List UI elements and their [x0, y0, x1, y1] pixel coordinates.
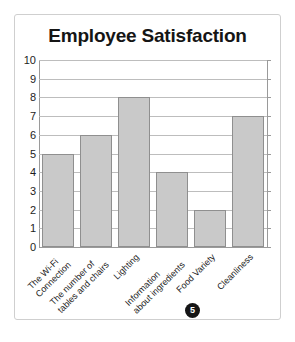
y-tick-label-4: 4 — [30, 166, 36, 178]
tick-mark-8 — [267, 97, 271, 98]
x-axis-label: Food Variety — [174, 252, 217, 295]
y-tick-label-0: 0 — [30, 241, 36, 253]
y-tick-label-10: 10 — [24, 54, 36, 66]
bar-slot — [115, 60, 153, 247]
chart-title: Employee Satisfaction — [15, 25, 280, 47]
chart-figure-frame: Employee Satisfaction 109876543210 The W… — [14, 14, 281, 320]
plot-area — [39, 60, 267, 247]
y-tick-label-3: 3 — [30, 185, 36, 197]
y-tick-label-2: 2 — [30, 204, 36, 216]
bar-slot — [191, 60, 229, 247]
tick-mark-3 — [267, 191, 271, 192]
y-tick-label-1: 1 — [30, 222, 36, 234]
bar-slot — [77, 60, 115, 247]
tick-mark-6 — [267, 135, 271, 136]
tick-mark-0 — [267, 247, 271, 248]
tick-mark-10 — [267, 60, 271, 61]
bar-slot — [39, 60, 77, 247]
gridline-0 — [39, 247, 267, 248]
y-tick-label-6: 6 — [30, 129, 36, 141]
bar — [232, 116, 265, 247]
tick-mark-2 — [267, 210, 271, 211]
annotation-badge-5: 5 — [185, 303, 200, 318]
tick-mark-9 — [267, 79, 271, 80]
y-tick-label-7: 7 — [30, 110, 36, 122]
y-tick-label-5: 5 — [30, 148, 36, 160]
bar — [194, 210, 227, 247]
tick-mark-5 — [267, 154, 271, 155]
bar-series — [39, 60, 267, 247]
bar — [156, 172, 189, 247]
tick-mark-1 — [267, 228, 271, 229]
y-tick-label-9: 9 — [30, 73, 36, 85]
bar — [42, 154, 75, 248]
tick-mark-4 — [267, 172, 271, 173]
bar — [80, 135, 113, 247]
y-tick-label-8: 8 — [30, 91, 36, 103]
tick-mark-7 — [267, 116, 271, 117]
bar-slot — [153, 60, 191, 247]
bar — [118, 97, 151, 247]
x-axis-label: Lighting — [112, 252, 142, 282]
bar-slot — [229, 60, 267, 247]
x-axis-label: Cleanliness — [215, 252, 255, 292]
y-axis-tick-labels: 109876543210 — [15, 60, 36, 247]
